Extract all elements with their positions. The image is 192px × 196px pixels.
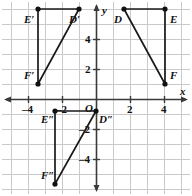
vertex-label-f-prime: F′ [24,70,34,81]
coordinate-plane-figure: E′ D′ F′ D E F E″ D″ F″ –4 –2 2 4 2 4 –2… [0,0,192,196]
x-tick-label-4: 4 [161,104,167,115]
vertex-label-e-prime: E′ [24,14,34,25]
y-axis-label: y [102,5,107,16]
coordinate-grid-svg [0,0,192,196]
origin-label: O [85,103,93,114]
vertex-label-f-dprime: F″ [41,170,54,181]
vertex-label-d-prime: D′ [69,14,80,25]
y-tick-label-neg4: –4 [79,154,90,165]
x-axis-label: x [180,86,186,97]
x-tick-label-neg2: –2 [56,104,67,115]
vertex-label-e: E [170,14,177,25]
vertex-label-d: D [114,14,122,25]
x-tick-label-neg4: –4 [22,104,33,115]
vertex-label-f: F [170,70,177,81]
vertex-label-e-dprime: E″ [41,114,54,125]
y-tick-label-4: 4 [85,34,91,45]
y-tick-label-2: 2 [85,64,91,75]
triangle-d-dprime-e-dprime-f-dprime [55,111,96,184]
y-tick-label-neg2: –2 [79,124,90,135]
axis-lines [6,6,186,190]
vertex-label-d-dprime: D″ [99,114,113,125]
x-tick-label-2: 2 [127,104,133,115]
